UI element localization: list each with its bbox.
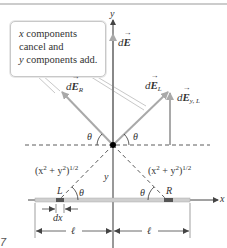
ell-right-label: ℓ <box>147 226 151 236</box>
dE-label: dE <box>118 37 131 48</box>
y-distance-label: y <box>104 172 108 182</box>
callout-line-3: y components add. <box>19 53 97 66</box>
dE-R-label: dER <box>66 81 83 94</box>
theta-upper-right: θ <box>133 132 138 142</box>
theta-lower-left: θ <box>79 188 84 198</box>
callout-line-1: x components <box>19 27 97 40</box>
y-axis-label: y <box>110 9 114 19</box>
dx-label: dx <box>53 213 62 223</box>
callout-line-2: cancel and <box>19 40 97 53</box>
hyp-left-label: (x2 + y2)1/2 <box>35 165 78 176</box>
hyp-right-label: (x2 + y2)1/2 <box>148 165 191 176</box>
point-R-label: R <box>166 186 172 196</box>
rod-segment-L <box>56 198 64 202</box>
explanation-callout: x components cancel and y components add… <box>10 21 106 77</box>
callout-pointers <box>36 75 146 110</box>
theta-lower-right: θ <box>140 188 145 198</box>
origin-point <box>110 142 116 148</box>
callout-text: x components cancel and y components add… <box>19 27 97 66</box>
angle-arc-upper-right <box>124 134 129 145</box>
angle-arc-upper-left <box>97 134 102 145</box>
theta-upper-left: θ <box>87 132 92 142</box>
ell-left-label: ℓ <box>71 226 75 236</box>
rod-segment-R <box>164 198 173 202</box>
x-axis-label: x <box>220 194 224 204</box>
dE-L-label: dEL <box>145 80 162 93</box>
dE-L-vector <box>113 92 168 145</box>
point-L-label: L <box>57 186 63 196</box>
figure-number-fragment: 7 <box>0 236 6 248</box>
dE-yL-label: dEy, L <box>177 92 200 105</box>
